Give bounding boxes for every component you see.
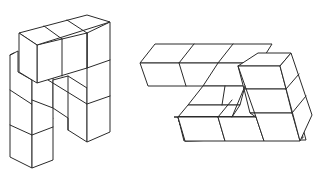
right-block-structure: [140, 44, 312, 141]
puzzle-figure: [0, 0, 319, 185]
cube-drawings: [0, 0, 319, 185]
left-block-structure: [10, 15, 110, 168]
